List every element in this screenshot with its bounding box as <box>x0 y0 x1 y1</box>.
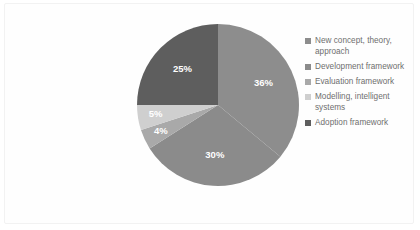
pie-slice-value-label: 36% <box>254 77 274 88</box>
chart-card: 36%30%4%5%25% New concept, theory, appro… <box>4 3 414 224</box>
pie-chart-svg: 36%30%4%5%25% <box>136 23 300 187</box>
legend-swatch-icon <box>305 64 311 70</box>
pie-slice-group <box>137 24 299 186</box>
legend-item[interactable]: Modelling, intelligent systems <box>305 91 420 113</box>
pie-slice-value-label: 30% <box>205 149 225 160</box>
legend-swatch-icon <box>305 94 311 100</box>
legend-item-label: Evaluation framework <box>315 76 394 87</box>
legend-swatch-icon <box>305 79 311 85</box>
pie-slice-value-label: 25% <box>173 63 193 74</box>
legend-item[interactable]: Adoption framework <box>305 117 420 128</box>
legend-item[interactable]: Evaluation framework <box>305 76 420 87</box>
pie-slice-value-label: 4% <box>154 125 168 136</box>
legend-item-label: Adoption framework <box>315 117 388 128</box>
legend-item-label: New concept, theory, approach <box>315 35 392 57</box>
pie-chart-plot-area: 36%30%4%5%25% <box>136 23 300 187</box>
pie-slice-value-label: 5% <box>149 108 163 119</box>
legend-item-label: Modelling, intelligent systems <box>315 91 390 113</box>
legend-item[interactable]: Development framework <box>305 61 420 72</box>
legend-item[interactable]: New concept, theory, approach <box>305 35 420 57</box>
legend-swatch-icon <box>305 120 311 126</box>
legend-swatch-icon <box>305 38 311 44</box>
chart-legend: New concept, theory, approachDevelopment… <box>305 35 420 132</box>
legend-item-label: Development framework <box>315 61 404 72</box>
